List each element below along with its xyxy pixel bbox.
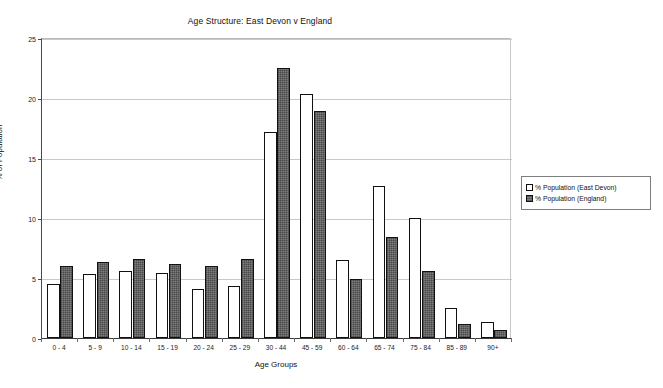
bar-england [422, 271, 435, 338]
x-tick-mark [41, 338, 42, 342]
legend-label-england: % Population (England) [535, 195, 606, 202]
x-tick-label: 65 - 74 [374, 344, 395, 351]
chart-figure: Age Structure: East Devon v England % of… [0, 0, 663, 388]
x-tick-mark [475, 338, 476, 342]
x-tick-mark [403, 338, 404, 342]
x-tick-mark [149, 338, 150, 342]
bar-east-devon [156, 273, 169, 338]
x-tick-label: 75 - 84 [410, 344, 431, 351]
x-tick-label: 20 - 24 [193, 344, 214, 351]
x-tick-mark [511, 338, 512, 342]
x-tick-mark [366, 338, 367, 342]
bar-england [97, 262, 110, 338]
bar-england [386, 237, 399, 338]
bar-east-devon [373, 186, 386, 338]
x-axis-line [41, 338, 511, 339]
y-axis-title-text: % of Population [0, 124, 4, 180]
x-tick-mark [330, 338, 331, 342]
bar-east-devon [119, 271, 132, 338]
y-tick-mark [38, 159, 42, 160]
bar-england [205, 266, 218, 338]
bar-east-devon [481, 322, 494, 338]
y-tick-label: 5 [32, 276, 36, 283]
x-tick-label: 15 - 19 [157, 344, 178, 351]
y-tick-mark [38, 99, 42, 100]
bar-england [169, 264, 182, 338]
x-tick-mark [77, 338, 78, 342]
bar-east-devon [336, 260, 349, 338]
bar-east-devon [83, 274, 96, 338]
y-tick-label: 25 [28, 36, 36, 43]
bar-england [314, 111, 327, 338]
legend-label-east-devon: % Population (East Devon) [535, 184, 617, 191]
x-tick-label: 25 - 29 [230, 344, 251, 351]
x-tick-mark [439, 338, 440, 342]
gridline [42, 39, 512, 40]
chart-title: Age Structure: East Devon v England [0, 16, 520, 26]
legend-item-east-devon[interactable]: % Population (East Devon) [526, 182, 646, 193]
x-tick-label: 30 - 44 [266, 344, 287, 351]
x-axis-title: Age Groups [41, 360, 511, 369]
x-tick-label: 45 - 59 [302, 344, 323, 351]
bar-east-devon [228, 286, 241, 338]
plot-right-edge [510, 38, 511, 338]
plot-frame: 0510152025 [41, 38, 511, 338]
bar-england [60, 266, 73, 338]
x-tick-label: 5 - 9 [89, 344, 102, 351]
x-tick-mark [186, 338, 187, 342]
x-tick-mark [294, 338, 295, 342]
bar-east-devon [47, 284, 60, 338]
legend-swatch-icon-east-devon [526, 184, 533, 191]
bar-east-devon [445, 308, 458, 338]
plot-area [42, 39, 511, 338]
bar-england [133, 259, 146, 338]
y-tick-label: 20 [28, 96, 36, 103]
bar-england [494, 330, 507, 338]
y-tick-label: 15 [28, 156, 36, 163]
x-tick-mark [222, 338, 223, 342]
x-tick-label: 85 - 89 [447, 344, 468, 351]
legend-swatch-icon-england [526, 195, 533, 202]
bar-england [277, 68, 290, 338]
x-tick-mark [113, 338, 114, 342]
y-tick-label: 0 [32, 336, 36, 343]
bar-england [241, 259, 254, 338]
y-tick-label: 10 [28, 216, 36, 223]
legend-item-england[interactable]: % Population (England) [526, 193, 646, 204]
x-tick-label: 90+ [487, 344, 498, 351]
bar-east-devon [409, 218, 422, 338]
bar-england [350, 279, 363, 338]
bar-east-devon [300, 94, 313, 338]
bar-east-devon [264, 132, 277, 338]
bar-east-devon [192, 289, 205, 338]
bar-england [458, 324, 471, 338]
y-tick-mark [38, 219, 42, 220]
x-tick-label: 60 - 64 [338, 344, 359, 351]
x-tick-label: 10 - 14 [121, 344, 142, 351]
x-tick-label: 0 - 4 [52, 344, 65, 351]
chart-legend: % Population (East Devon) % Population (… [521, 176, 651, 210]
x-tick-mark [258, 338, 259, 342]
y-tick-mark [38, 279, 42, 280]
y-tick-mark [38, 39, 42, 40]
